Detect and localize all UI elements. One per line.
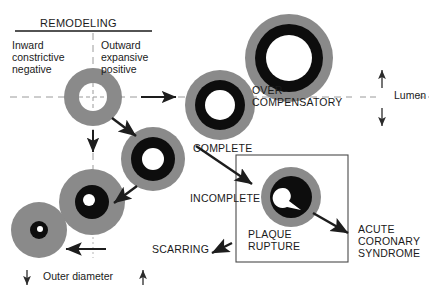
outer-diameter-axis-label: Outer diameter [43,271,113,283]
stage-label-over-compensatory: OVER- COMPENSATORY [252,85,343,109]
stage-label-complete: COMPLETE [193,143,252,155]
arrow-baseline-to-incomplete [112,118,136,136]
lumen-axis-label: Lumen [394,90,426,102]
vessel-baseline [64,68,122,126]
diagram-title: REMODELING [40,17,117,29]
quadrant-label-left: Inward constrictive negative [12,40,65,75]
vessel-complete [185,70,255,140]
vessel-scarring-small [11,202,67,258]
stage-label-acute-coronary-syndrome: ACUTE CORONARY SYNDROME [358,224,420,259]
vessel-incomplete [121,127,185,191]
stage-label-incomplete: INCOMPLETE [190,193,260,205]
stage-label-scarring: SCARRING [152,244,209,256]
quadrant-label-right: Outward expansive positive [101,40,148,75]
arrow-rupture-to-scarring [212,243,232,253]
vessel-plaque-rupture [261,167,321,227]
remodeling-diagram: REMODELING Inward constrictive negative … [0,0,429,297]
stage-label-plaque-rupture: PLAQUE RUPTURE [248,229,300,253]
